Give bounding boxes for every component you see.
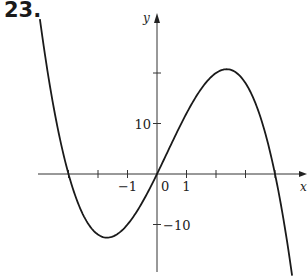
y-tick-label: −10	[163, 218, 190, 233]
cubic-graph: xy −10110−10	[0, 0, 307, 280]
y-axis-label: y	[142, 11, 150, 25]
tick-marks	[69, 73, 276, 225]
function-curve	[40, 19, 292, 276]
x-axis-label: x	[300, 180, 307, 194]
x-tick-label: −1	[118, 179, 137, 194]
x-tick-label: 0	[161, 179, 169, 194]
x-tick-label: 1	[182, 179, 190, 194]
y-tick-label: 10	[134, 117, 151, 132]
y-axis-arrow-icon	[154, 13, 160, 23]
x-axis-arrow-icon	[299, 171, 307, 177]
